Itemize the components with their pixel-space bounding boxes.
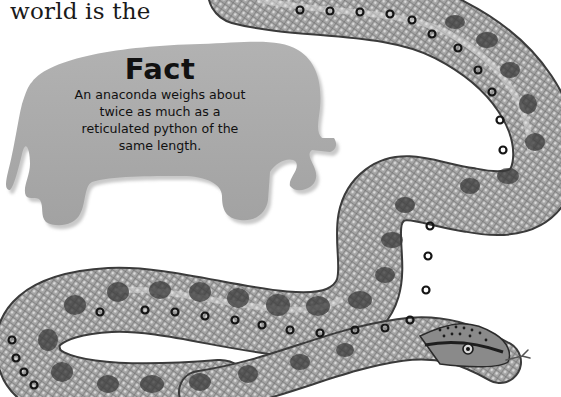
fact-line: same length. (119, 138, 201, 153)
fact-callout: Fact An anaconda weighs about twice as m… (40, 54, 280, 154)
fact-line: reticulated python of the (82, 121, 239, 136)
fact-body: An anaconda weighs about twice as much a… (40, 86, 280, 154)
fact-title: Fact (40, 54, 280, 84)
fact-line: twice as much as a (100, 104, 221, 119)
book-page: world is the (0, 0, 561, 397)
fact-line: An anaconda weighs about (75, 87, 246, 102)
